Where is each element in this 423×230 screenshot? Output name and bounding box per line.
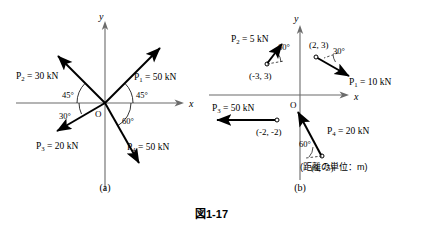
p2-angle-label-a: 45° bbox=[62, 90, 74, 100]
figure-caption: 図1-17 bbox=[0, 205, 423, 221]
p3-label-b: P3 = 50 kN bbox=[212, 103, 254, 114]
axes-group-a: y x O bbox=[16, 11, 194, 190]
arc-30-p3 bbox=[79, 103, 82, 114]
p2-label-b: P2 = 5 kN bbox=[231, 34, 269, 45]
force-vector-p3-b: (-2, -2) P3 = 50 kN bbox=[212, 103, 282, 137]
p2-label-a: P2 = 30 kN bbox=[16, 71, 58, 82]
p1-arrow-b bbox=[318, 58, 350, 76]
force-vector-p4-a: P4 = 50 kN 60° bbox=[105, 103, 169, 163]
force-vector-p1-b: 30° (2, 3) P1 = 10 kN bbox=[309, 40, 391, 88]
p3-application-point-b bbox=[275, 118, 279, 122]
p3-point-label-b: (-2, -2) bbox=[256, 127, 282, 137]
force-vector-p2-a: P2 = 30 kN 45° bbox=[16, 56, 105, 103]
diagram-panel-a: y x O P1 = 50 kN 45° P2 = 30 kN 45° P3 =… bbox=[0, 0, 212, 200]
force-vector-p1-a: P1 = 50 kN 45° bbox=[105, 48, 176, 103]
subcaption-b: (b) bbox=[270, 182, 330, 193]
p4-label-a: P4 = 50 kN bbox=[127, 142, 169, 153]
arc-45-p2 bbox=[77, 83, 85, 103]
p1-label-a: P1 = 50 kN bbox=[134, 72, 176, 83]
y-axis-label-b: y bbox=[293, 13, 299, 24]
p1-label-b: P1 = 10 kN bbox=[349, 77, 391, 88]
p4-angle-label-b: 60° bbox=[299, 139, 311, 149]
p4-label-b: P4 = 20 kN bbox=[327, 126, 369, 137]
p2-point-label-b: (-3, 3) bbox=[249, 71, 272, 81]
subcaption-a: (a) bbox=[75, 182, 135, 193]
y-axis-label-a: y bbox=[98, 11, 104, 22]
figure-container: y x O P1 = 50 kN 45° P2 = 30 kN 45° P3 =… bbox=[0, 0, 423, 230]
p2-angle-label-b: 60° bbox=[278, 42, 290, 52]
origin-label-b: O bbox=[290, 100, 297, 110]
p1-angle-label-b: 30° bbox=[333, 46, 345, 56]
x-axis-label-b: x bbox=[353, 91, 359, 102]
force-vector-p2-b: 60° (-3, 3) P2 = 5 kN bbox=[231, 34, 290, 81]
origin-label-a: O bbox=[95, 109, 102, 119]
p3-label-a: P3 = 20 kN bbox=[36, 141, 78, 152]
p3-angle-label-a: 30° bbox=[59, 111, 71, 121]
p4-reference-line-b bbox=[306, 156, 322, 158]
p1-angle-arc-b bbox=[333, 55, 336, 62]
distance-unit-note: (距離の単位：m) bbox=[300, 160, 368, 173]
p2-angle-arc-b bbox=[278, 53, 282, 62]
arc-45-p1 bbox=[125, 83, 133, 103]
p4-angle-label-a: 60° bbox=[122, 116, 134, 126]
p4-arrow-a bbox=[105, 103, 139, 163]
p1-point-label-b: (2, 3) bbox=[309, 40, 329, 50]
x-axis-label-a: x bbox=[188, 98, 194, 109]
p1-angle-label-a: 45° bbox=[136, 90, 148, 100]
